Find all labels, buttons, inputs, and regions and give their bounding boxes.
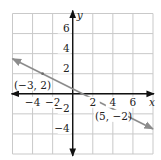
x-tick-label: 4 xyxy=(110,96,117,108)
point-label-right: (5, −2) xyxy=(95,110,132,122)
y-axis-label: y xyxy=(76,9,84,21)
coordinate-plane: −4−2246642−2−4xy(−3, 2)(5, −2) xyxy=(0,0,161,160)
y-tick-label: 6 xyxy=(63,22,70,34)
y-tick-label: −4 xyxy=(54,122,70,134)
point-label-left: (−3, 2) xyxy=(14,79,51,91)
x-axis-label: x xyxy=(149,96,155,108)
x-tick-label: 6 xyxy=(130,96,137,108)
y-tick-label: 4 xyxy=(63,42,70,54)
x-tick-label: 2 xyxy=(89,96,96,108)
labels: −4−2246642−2−4xy(−3, 2)(5, −2) xyxy=(13,9,155,134)
y-tick-label: 2 xyxy=(63,62,70,74)
point-marker xyxy=(41,72,44,75)
x-tick-label: −4 xyxy=(25,96,41,108)
y-tick-label: −2 xyxy=(54,102,69,114)
